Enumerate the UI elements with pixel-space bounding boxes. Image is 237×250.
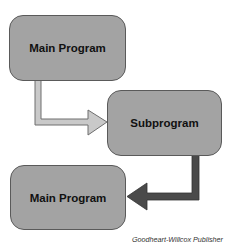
main-program-label-top: Main Program	[29, 42, 106, 54]
main-program-box-top: Main Program	[9, 15, 126, 81]
subprogram-label: Subprogram	[130, 117, 198, 129]
main-program-label-bottom: Main Program	[30, 192, 107, 204]
main-program-box-bottom: Main Program	[10, 165, 126, 230]
publisher-caption: Goodheart-Willcox Publisher	[132, 235, 223, 244]
call-arrow	[35, 80, 107, 135]
subprogram-box: Subprogram	[107, 90, 222, 156]
return-arrow	[127, 155, 199, 210]
